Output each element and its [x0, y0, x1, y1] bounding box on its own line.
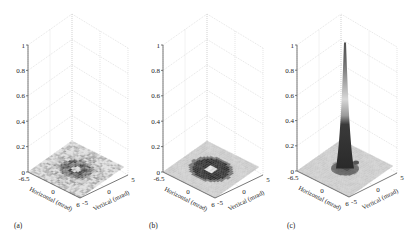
panel-c: 00.20.40.60.81-6.506-505Horizontal (mrad…: [285, 14, 404, 230]
z-tick-label: 0.6: [16, 92, 25, 100]
z-tick-label: 0.8: [16, 67, 25, 75]
z-tick-label: 0.2: [16, 143, 25, 151]
y-tick-label: 5: [266, 176, 270, 184]
panel-a: 00.20.40.60.81-6.506-505Horizontal (mrad…: [14, 14, 135, 230]
panel-label: (c): [287, 221, 296, 230]
x-tick-label: -6.5: [18, 175, 30, 183]
panel-label: (a): [14, 221, 23, 230]
y-tick-label: 5: [131, 176, 135, 184]
y-tick-label: 0: [376, 186, 380, 194]
z-tick-label: 1: [157, 42, 161, 50]
y-axis-title: Vertical (mrad): [92, 189, 131, 213]
y-axis-title: Vertical (mrad): [227, 189, 266, 213]
z-tick-label: 0.4: [285, 117, 294, 125]
z-tick-label: 0.2: [151, 143, 160, 151]
x-tick-label: 6: [76, 201, 80, 209]
z-tick-label: 1: [291, 42, 295, 50]
z-tick-label: 0.6: [285, 92, 294, 100]
z-tick-label: 0.2: [285, 142, 294, 150]
y-tick-label: -5: [217, 199, 223, 207]
x-tick-label: -6.5: [287, 174, 299, 182]
z-tick-label: 0.8: [285, 67, 294, 75]
figure-three-3d-surfaces: 00.20.40.60.81-6.506-505Horizontal (mrad…: [0, 0, 419, 240]
y-tick-label: 0: [107, 188, 111, 196]
y-axis-title: Vertical (mrad): [361, 187, 400, 212]
z-tick-label: 0.8: [151, 67, 160, 75]
z-tick-label: 1: [22, 42, 26, 50]
y-tick-label: -5: [351, 198, 357, 206]
panel-label: (b): [149, 221, 158, 230]
panel-b: 00.20.40.60.81-6.506-505Horizontal (mrad…: [149, 14, 270, 230]
peak-spike: [336, 43, 354, 169]
side-bump: [353, 161, 359, 165]
y-tick-label: 5: [400, 174, 404, 182]
x-tick-label: 6: [211, 201, 215, 209]
x-tick-label: 6: [345, 200, 349, 208]
z-tick-label: 0.4: [16, 118, 25, 126]
y-tick-label: -5: [82, 199, 88, 207]
z-tick-label: 0.6: [151, 92, 160, 100]
z-tick-label: 0.4: [151, 118, 160, 126]
y-tick-label: 0: [242, 188, 246, 196]
x-tick-label: -6.5: [153, 175, 165, 183]
